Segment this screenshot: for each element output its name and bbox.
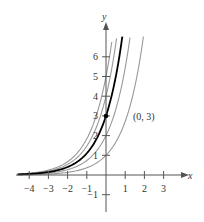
- x-axis-label: x: [187, 170, 193, 181]
- x-tick-label: −3: [43, 183, 54, 194]
- y-tick-label: 3: [93, 110, 98, 121]
- y-tick-label: 5: [93, 71, 98, 82]
- x-tick-label: 1: [123, 183, 128, 194]
- y-tick-label: 2: [93, 130, 98, 141]
- exponential-family-chart: −4−3−2−1123−1123456 x y (0, 3): [0, 0, 204, 222]
- y-tick-label: 4: [93, 91, 98, 102]
- y-axis-label: y: [101, 11, 107, 22]
- curve-group: [18, 37, 144, 175]
- y-tick-label: −1: [87, 189, 98, 200]
- y-axis-arrow-icon: [103, 22, 109, 30]
- highlighted-curve: [18, 37, 123, 175]
- x-tick-label: 3: [161, 183, 166, 194]
- point-label: (0, 3): [133, 111, 155, 123]
- family-curve: [18, 38, 117, 174]
- x-tick-label: −2: [62, 183, 73, 194]
- axis-ticks: −4−3−2−1123−1123456: [24, 51, 166, 200]
- highlight-point: [104, 114, 109, 119]
- y-tick-label: 6: [93, 51, 98, 62]
- x-tick-label: −4: [24, 183, 35, 194]
- x-tick-label: 2: [142, 183, 147, 194]
- y-tick-label: 1: [93, 150, 98, 161]
